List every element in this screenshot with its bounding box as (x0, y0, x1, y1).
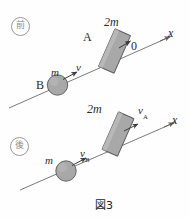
ball-after-velocity-label: vB (80, 148, 89, 162)
block-after (102, 112, 134, 156)
x-axis-label-top: x (168, 27, 173, 39)
phase-badge-before: 前 (11, 17, 30, 36)
phase-badge-after: 後 (10, 137, 29, 156)
ball-B-mass-label: m (51, 67, 59, 78)
incline-line-bottom (20, 122, 176, 190)
block-A (98, 29, 130, 73)
figure-caption: 図3 (95, 196, 113, 212)
block-A-velocity-label: 0 (131, 40, 137, 52)
ball-B-highlight (49, 77, 58, 86)
block-A-mass-label: 2m (104, 16, 119, 28)
ball-B-velocity-label: v (76, 62, 81, 73)
physics-figure: 前 2m A 0 x m B v 後 2m vA x m vB 図3 (0, 0, 190, 218)
velocity-arrow-ball-B (63, 72, 77, 80)
ball-after-mass-label: m (45, 155, 53, 166)
block-A-name-label: A (83, 31, 92, 43)
x-axis-label-bottom: x (172, 114, 177, 126)
velocity-subscript: A (143, 113, 148, 120)
panel-after (20, 112, 176, 190)
block-after-velocity-label: vA (138, 105, 148, 119)
velocity-subscript: B (85, 156, 90, 163)
incline-line-top (9, 36, 172, 108)
block-after-mass-label: 2m (87, 103, 102, 115)
ball-after-highlight (58, 163, 67, 172)
ball-B-name-label: B (36, 79, 44, 91)
ball-after (56, 161, 76, 181)
